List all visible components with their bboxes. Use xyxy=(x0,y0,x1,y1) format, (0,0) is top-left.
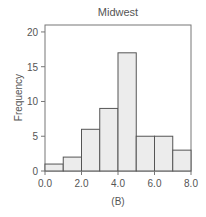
histogram-bar xyxy=(173,150,191,171)
y-tick-label: 10 xyxy=(27,96,39,107)
histogram-bar xyxy=(155,136,173,171)
y-tick-label: 0 xyxy=(32,166,38,177)
histogram-plot: 051015200.02.04.06.08.0 xyxy=(0,0,206,217)
x-tick-label: 8.0 xyxy=(184,178,198,189)
histogram-bar xyxy=(82,129,100,171)
y-tick-label: 15 xyxy=(27,62,39,73)
histogram-bar xyxy=(118,53,136,171)
x-tick-label: 6.0 xyxy=(148,178,162,189)
x-tick-label: 2.0 xyxy=(75,178,89,189)
histogram-bar xyxy=(45,164,63,171)
y-tick-label: 20 xyxy=(27,27,39,38)
y-tick-label: 5 xyxy=(32,131,38,142)
x-tick-label: 0.0 xyxy=(38,178,52,189)
histogram-bar xyxy=(100,108,118,171)
x-tick-label: 4.0 xyxy=(111,178,125,189)
histogram-bar xyxy=(63,157,81,171)
histogram-bar xyxy=(136,136,154,171)
